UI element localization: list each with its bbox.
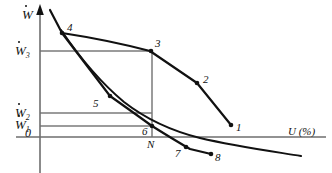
y-tick-w3: W3 bbox=[15, 44, 30, 57]
marker-point-5 bbox=[108, 94, 113, 99]
data-curves bbox=[50, 10, 301, 156]
y-axis-label-text: W bbox=[22, 8, 33, 21]
y-tick-w3-base: W bbox=[15, 44, 26, 57]
point-label-2: 2 bbox=[203, 74, 209, 85]
marker-point-1 bbox=[229, 123, 234, 128]
point-label-7: 7 bbox=[175, 148, 181, 159]
axes bbox=[16, 4, 326, 173]
figure-canvas: W W3 W2 W1 0 U (%) N 1 2 3 4 5 6 7 8 bbox=[0, 0, 332, 173]
point-label-1: 1 bbox=[236, 122, 242, 133]
marker-point-6 bbox=[150, 124, 155, 129]
marker-point-7 bbox=[184, 145, 189, 150]
chart-svg bbox=[0, 0, 332, 173]
y-tick-w3-sub: 3 bbox=[26, 51, 30, 60]
y-tick-zero: 0 bbox=[25, 127, 31, 139]
y-axis-label: W bbox=[22, 8, 33, 21]
marker-point-3 bbox=[149, 49, 154, 54]
marker-point-4 bbox=[60, 31, 65, 36]
x-axis-label: U (%) bbox=[288, 126, 315, 137]
marker-point-2 bbox=[195, 81, 200, 86]
point-label-3: 3 bbox=[155, 38, 161, 49]
vertical-marker-label-n: N bbox=[147, 139, 154, 150]
point-label-8: 8 bbox=[215, 152, 221, 163]
gridlines bbox=[40, 51, 152, 137]
y-axis-arrow-icon bbox=[36, 4, 44, 15]
point-label-6: 6 bbox=[142, 126, 148, 137]
curve-steep-4-5 bbox=[50, 10, 110, 96]
point-label-4: 4 bbox=[67, 22, 73, 33]
marker-point-8 bbox=[209, 152, 214, 157]
point-label-5: 5 bbox=[93, 98, 99, 109]
